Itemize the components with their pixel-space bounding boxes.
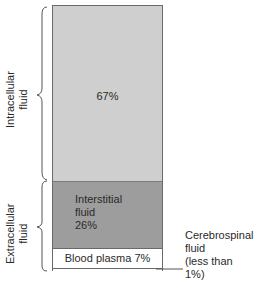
extracellular-group-label: Extracellular fluid bbox=[4, 203, 30, 264]
cerebrospinal-label: Cerebrospinal fluid (less than 1%) bbox=[185, 229, 254, 281]
intracellular-group-label: Intracellular fluid bbox=[4, 71, 30, 128]
extracellular-label-line-2: fluid bbox=[17, 203, 30, 264]
extracellular-brace-icon bbox=[37, 181, 47, 271]
extracellular-label-line-1: Extracellular bbox=[4, 203, 17, 264]
intracellular-label-line-2: fluid bbox=[17, 71, 30, 128]
csf-label-line-2: fluid bbox=[185, 242, 254, 255]
intracellular-brace-icon bbox=[37, 7, 47, 180]
csf-label-line-3: (less than 1%) bbox=[185, 255, 254, 281]
csf-label-line-1: Cerebrospinal bbox=[185, 229, 254, 242]
intracellular-label-line-1: Intracellular bbox=[4, 71, 17, 128]
